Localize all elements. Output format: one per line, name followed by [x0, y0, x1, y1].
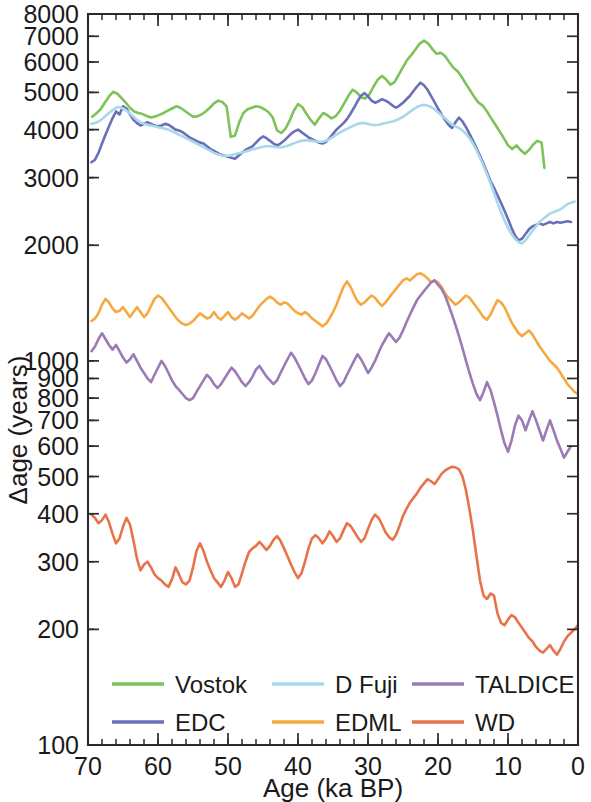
x-axis-label: Age (ka BP) [263, 773, 403, 802]
y-tick-label: 3000 [23, 164, 79, 192]
x-tick-label: 10 [494, 752, 522, 780]
x-tick-label: 0 [571, 752, 585, 780]
y-tick-label: 400 [37, 500, 79, 528]
y-tick-label: 100 [37, 731, 79, 759]
x-tick-label: 20 [424, 752, 452, 780]
y-tick-label: 600 [37, 432, 79, 460]
y-tick-label: 500 [37, 463, 79, 491]
y-tick-label: 6000 [23, 48, 79, 76]
y-tick-label: 300 [37, 548, 79, 576]
x-tick-label: 60 [144, 752, 172, 780]
legend-label: EDML [335, 709, 402, 736]
y-tick-label: 5000 [23, 78, 79, 106]
x-tick-label: 50 [214, 752, 242, 780]
delta-age-chart: 1002003004005006007008009001000200030004… [0, 0, 591, 802]
legend-label: TALDICE [475, 671, 575, 698]
legend-label: WD [475, 709, 515, 736]
y-axis-label: Δage (years) [3, 356, 33, 505]
x-tick-label: 70 [74, 752, 102, 780]
y-tick-label: 2000 [23, 231, 79, 259]
legend-label: EDC [175, 709, 226, 736]
y-tick-label: 200 [37, 615, 79, 643]
legend-label: D Fuji [335, 671, 398, 698]
y-tick-label: 4000 [23, 116, 79, 144]
legend-label: Vostok [175, 671, 248, 698]
y-tick-label: 8000 [23, 0, 79, 28]
